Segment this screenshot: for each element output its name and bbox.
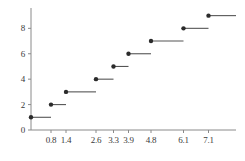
- y-tick-label: 4: [0, 75, 25, 84]
- x-tick-label: 4.8: [146, 136, 157, 145]
- axes-group: [31, 8, 236, 130]
- data-point-marker: [111, 64, 115, 68]
- data-point-marker: [181, 26, 185, 30]
- x-tick-label: 0.8: [46, 136, 57, 145]
- y-tick-label: 6: [0, 49, 25, 58]
- data-point-marker: [149, 39, 153, 43]
- y-tick-label: 2: [0, 100, 25, 109]
- data-point-marker: [126, 52, 130, 56]
- data-point-marker: [64, 90, 68, 94]
- x-tick-label: 1.4: [61, 136, 72, 145]
- data-point-marker: [49, 102, 53, 106]
- x-tick-label: 7.1: [203, 136, 214, 145]
- x-tick-label: 3.9: [123, 136, 134, 145]
- y-tick-label: 0: [0, 126, 25, 135]
- x-tick-label: 2.6: [91, 136, 102, 145]
- step-segments-group: [31, 16, 236, 118]
- data-point-marker: [206, 13, 210, 17]
- step-function-chart: 0.81.42.63.33.94.86.17.1 02468: [0, 0, 245, 161]
- x-tick-label: 3.3: [108, 136, 119, 145]
- tick-marks-group: [28, 28, 209, 133]
- data-point-marker: [94, 77, 98, 81]
- y-tick-label: 8: [0, 24, 25, 33]
- x-tick-label: 6.1: [178, 136, 189, 145]
- data-point-marker: [29, 115, 33, 119]
